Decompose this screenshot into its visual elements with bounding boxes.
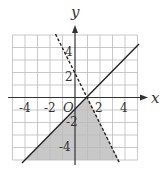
y-tick-label: -4 xyxy=(59,140,71,154)
x-tick-label: 4 xyxy=(120,101,128,115)
x-tick-label: -4 xyxy=(19,101,31,115)
x-axis-arrow-icon xyxy=(140,95,148,101)
graph: x y O -4 -2 2 4 4 2 -2 -4 xyxy=(0,0,167,171)
y-axis-arrow-icon xyxy=(72,25,78,33)
x-tick-label: -2 xyxy=(44,101,56,115)
y-tick-label: 4 xyxy=(65,45,73,59)
y-tick-label: -2 xyxy=(66,115,78,129)
y-tick-label: 2 xyxy=(65,70,73,84)
y-axis-label: y xyxy=(70,3,80,21)
origin-label: O xyxy=(63,100,74,115)
x-tick-label: 2 xyxy=(95,101,103,115)
x-axis-label: x xyxy=(151,89,160,107)
